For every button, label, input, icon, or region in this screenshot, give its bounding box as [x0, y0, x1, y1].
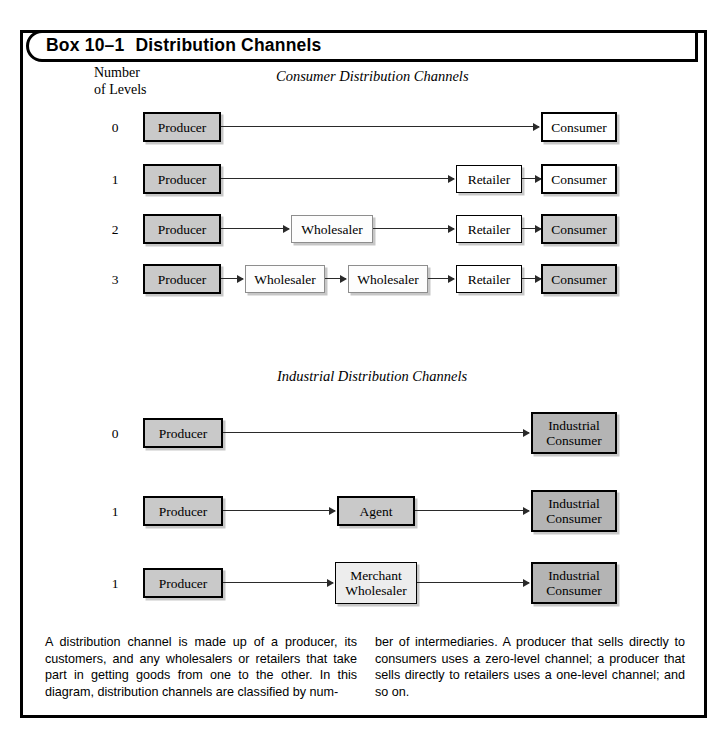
node-producer: Producer [143, 164, 221, 194]
node-industrial-consumer: Industrial Consumer [531, 490, 617, 532]
node-consumer: Consumer [541, 112, 617, 142]
node-consumer: Consumer [541, 164, 617, 194]
arrow-retailer-to-consumer [522, 178, 541, 179]
node-merchant-wholesaler: Merchant Wholesaler [335, 562, 417, 604]
arrow-producer-to-consumer [221, 126, 539, 127]
caption-left-text: A distribution channel is made up of a p… [45, 634, 357, 700]
node-industrial-consumer-line2: Consumer [546, 583, 602, 598]
arrow-retailer-to-consumer [522, 278, 541, 279]
node-industrial-consumer-line1: Industrial [548, 418, 600, 433]
node-industrial-consumer-line2: Consumer [546, 511, 602, 526]
levels-axis-label-line2: of Levels [94, 81, 146, 98]
arrow-agent-to-industrial-consumer [415, 510, 529, 511]
box-number: Box 10–1 [46, 35, 124, 55]
arrow-wholesaler-to-retailer [428, 278, 454, 279]
node-producer: Producer [143, 496, 223, 526]
levels-axis-label: Number of Levels [94, 64, 146, 98]
node-industrial-consumer-line2: Consumer [546, 433, 602, 448]
arrow-producer-to-industrial-consumer [223, 432, 529, 433]
node-wholesaler: Wholesaler [245, 265, 325, 293]
node-industrial-consumer: Industrial Consumer [531, 412, 617, 454]
section-title-consumer: Consumer Distribution Channels [276, 68, 469, 85]
arrow-producer-to-wholesaler [221, 278, 243, 279]
box-figure-page: Box 10–1Distribution Channels Number of … [0, 0, 727, 736]
arrow-producer-to-merchant-wholesaler [223, 582, 333, 583]
node-merchant-wholesaler-line2: Wholesaler [345, 583, 406, 598]
node-consumer: Consumer [541, 264, 617, 294]
arrow-merchant-wholesaler-to-industrial-consumer [417, 582, 529, 583]
arrow-wholesaler-to-wholesaler [325, 278, 346, 279]
node-producer: Producer [143, 264, 221, 294]
arrow-producer-to-agent [223, 510, 335, 511]
node-retailer: Retailer [456, 265, 522, 293]
section-title-industrial: Industrial Distribution Channels [277, 368, 467, 385]
node-retailer: Retailer [456, 165, 522, 193]
page-title: Box 10–1Distribution Channels [46, 35, 321, 56]
node-retailer: Retailer [456, 215, 522, 243]
arrow-retailer-to-consumer [522, 228, 541, 229]
node-wholesaler: Wholesaler [348, 265, 428, 293]
arrow-producer-to-retailer [221, 178, 454, 179]
node-consumer: Consumer [541, 214, 617, 244]
arrow-wholesaler-to-retailer [373, 228, 454, 229]
node-agent: Agent [337, 496, 415, 526]
level-number-industrial-1: 1 [104, 504, 126, 520]
node-producer: Producer [143, 112, 221, 142]
node-producer: Producer [143, 568, 223, 598]
level-number-consumer-0: 0 [104, 120, 126, 136]
level-number-industrial-2: 1 [104, 576, 126, 592]
caption-right-text: ber of intermediaries. A producer that s… [375, 634, 685, 700]
level-number-consumer-1: 1 [104, 172, 126, 188]
node-merchant-wholesaler-line1: Merchant [350, 568, 402, 583]
levels-axis-label-line1: Number [94, 64, 146, 81]
node-wholesaler: Wholesaler [291, 215, 373, 243]
arrow-producer-to-wholesaler [221, 228, 289, 229]
caption-column-left: A distribution channel is made up of a p… [45, 634, 357, 700]
level-number-consumer-3: 3 [104, 272, 126, 288]
node-producer: Producer [143, 418, 223, 448]
caption-column-right: ber of intermediaries. A producer that s… [375, 634, 685, 700]
level-number-consumer-2: 2 [104, 222, 126, 238]
node-producer: Producer [143, 214, 221, 244]
node-industrial-consumer: Industrial Consumer [531, 562, 617, 604]
level-number-industrial-0: 0 [104, 426, 126, 442]
node-industrial-consumer-line1: Industrial [548, 568, 600, 583]
box-title: Distribution Channels [135, 35, 321, 55]
node-industrial-consumer-line1: Industrial [548, 496, 600, 511]
